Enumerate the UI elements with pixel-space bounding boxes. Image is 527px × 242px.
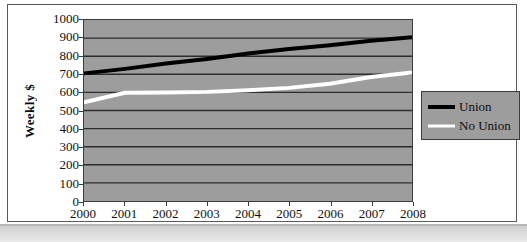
gridlines [84,38,412,183]
chart-legend: UnionNo Union [421,91,520,140]
legend-entry-label: Union [459,100,492,114]
x-axis-tick-mark [207,202,208,206]
x-axis-tick-label: 2003 [187,207,227,221]
legend-entry[interactable]: No Union [422,116,515,135]
x-axis-tick-label: 2000 [63,207,103,221]
y-axis-tick-mark [79,56,83,57]
legend-entry-label: No Union [459,119,511,133]
y-axis-tick-label: 400 [33,122,79,135]
chart-frame: Weekly $ 1000900800700600500400300200100… [7,4,517,222]
x-axis-tick-label: 2001 [104,207,144,221]
x-axis-tick-labels: 200020012002200320042005200620072008 [83,207,413,225]
legend-entry[interactable]: Union [422,97,515,116]
x-axis-tick-mark [124,202,125,206]
legend-line-swatch [428,102,455,112]
x-axis-tick-label: 2007 [352,207,392,221]
y-axis-tick-label: 500 [33,104,79,117]
plot-area [83,19,413,202]
plot-canvas [84,20,412,201]
y-axis-tick-mark [79,74,83,75]
x-axis-tick-mark [166,202,167,206]
y-axis-tick-mark [79,147,83,148]
x-axis-tick-label: 2006 [311,207,351,221]
x-axis-tick-mark [331,202,332,206]
x-axis-tick-mark [372,202,373,206]
x-axis-tick-label: 2002 [146,207,186,221]
y-axis-tick-mark [79,165,83,166]
x-axis-tick-mark [289,202,290,206]
x-axis-tick-label: 2004 [228,207,268,221]
y-axis-tick-labels: 10009008007006005004003002001000 [33,5,79,216]
x-axis-tick-label: 2005 [269,207,309,221]
y-axis-tick-label: 700 [33,67,79,80]
x-axis-tick-mark [83,202,84,206]
y-axis-tick-label: 900 [33,30,79,43]
y-axis-tick-mark [79,37,83,38]
y-axis-tick-label: 800 [33,49,79,62]
page-bottom-band [0,226,527,242]
series-line-union [84,37,412,73]
y-axis-tick-mark [79,19,83,20]
y-axis-tick-mark [79,184,83,185]
series-line-no-union [84,72,412,102]
y-axis-tick-mark [79,129,83,130]
x-axis-tick-mark [413,202,414,206]
y-axis-tick-mark [79,92,83,93]
x-axis-tick-mark [248,202,249,206]
y-axis-tick-label: 600 [33,85,79,98]
legend-line-swatch [428,121,455,131]
chart-screenshot: Weekly $ 1000900800700600500400300200100… [0,0,527,242]
y-axis-tick-mark [79,111,83,112]
y-axis-tick-label: 1000 [33,12,79,25]
y-axis-tick-label: 300 [33,140,79,153]
y-axis-tick-label: 200 [33,158,79,171]
y-axis-tick-label: 100 [33,177,79,190]
x-axis-tick-label: 2008 [393,207,433,221]
